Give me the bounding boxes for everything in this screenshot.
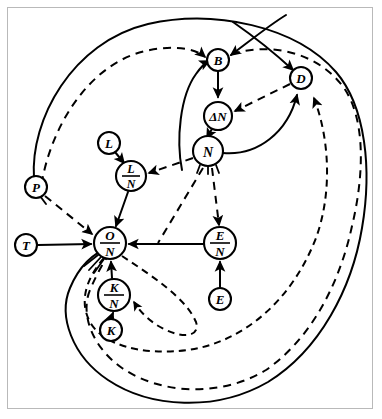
node-e-over-n-numerator: E: [215, 228, 225, 243]
solid-cross-to-b: [231, 15, 286, 55]
node-l-label: L: [104, 136, 113, 151]
node-t[interactable]: T: [15, 234, 37, 256]
node-delta-n-label: ΔN: [208, 109, 227, 124]
node-k-over-n-numerator: K: [109, 280, 120, 295]
flow-diagram: B D ΔN N L L N: [0, 0, 382, 419]
edge-n-to-en: [212, 168, 219, 225]
node-e-over-n-denominator: N: [214, 244, 225, 259]
node-o-over-n-numerator: O: [105, 228, 115, 243]
node-k-label: K: [106, 323, 117, 338]
node-l-over-n-numerator: L: [126, 162, 134, 176]
edge-n-to-ln: [149, 158, 193, 173]
node-l-over-n[interactable]: L N: [116, 161, 146, 191]
outer-solid-envelope: [34, 19, 367, 403]
node-l[interactable]: L: [98, 132, 120, 154]
dashed-envelope-right: [87, 49, 361, 389]
node-b-label: B: [213, 53, 223, 68]
edge-t-to-on: [38, 244, 91, 245]
node-b[interactable]: B: [207, 49, 229, 71]
node-t-label: T: [22, 238, 31, 253]
edge-k-to-kn: [111, 313, 113, 318]
node-p[interactable]: P: [25, 176, 47, 198]
node-delta-n[interactable]: ΔN: [204, 102, 232, 130]
node-n[interactable]: N: [193, 136, 223, 166]
node-d-label: D: [295, 71, 306, 86]
node-e[interactable]: E: [209, 288, 231, 310]
node-l-over-n-denominator: N: [126, 177, 137, 191]
node-o-over-n[interactable]: O N: [94, 227, 126, 259]
edge-p-to-on: [45, 196, 92, 234]
node-p-label: P: [32, 180, 41, 195]
edge-kn-to-on: [111, 262, 112, 278]
edge-l-to-ln: [115, 152, 124, 163]
node-e-label: E: [215, 292, 225, 307]
edge-n-to-d: [223, 95, 297, 153]
diagram-page: B D ΔN N L L N: [0, 0, 382, 419]
node-o-over-n-denominator: N: [104, 244, 115, 259]
edge-ln-to-on: [116, 192, 128, 226]
node-n-label: N: [202, 145, 214, 160]
edge-d-to-deltan: [235, 84, 290, 111]
node-d[interactable]: D: [290, 67, 312, 89]
edge-n-down-left: [158, 168, 203, 243]
dashed-loop-to-kn: [122, 256, 197, 335]
node-e-over-n[interactable]: E N: [204, 227, 236, 259]
node-k-over-n-denominator: N: [108, 296, 119, 311]
node-k[interactable]: K: [100, 319, 122, 341]
node-k-over-n[interactable]: K N: [98, 279, 130, 311]
